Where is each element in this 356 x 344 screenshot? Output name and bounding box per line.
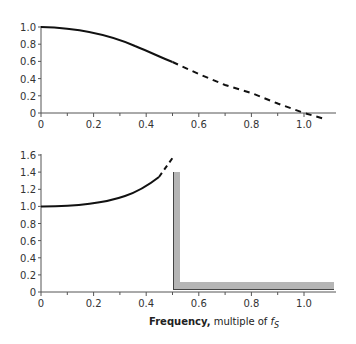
filter-vertical-band: [173, 172, 180, 290]
top-y-tick-labels: 0 0.2 0.4 0.6 0.8 1.0: [20, 22, 36, 119]
svg-text:0.2: 0.2: [86, 119, 102, 130]
top-chart: 0 0.2 0.4 0.6 0.8 1.0 0 0.2 0.4 0.6 0.: [20, 22, 336, 130]
svg-text:0.2: 0.2: [20, 91, 36, 102]
top-x-tick-labels: 0 0.2 0.4 0.6 0.8 1.0: [38, 119, 312, 130]
bottom-x-tick-labels: 0 0.2 0.4 0.6 0.8 1.0: [38, 298, 312, 309]
svg-text:0.8: 0.8: [243, 119, 259, 130]
svg-text:1.0: 1.0: [296, 119, 312, 130]
svg-text:1.0: 1.0: [20, 201, 36, 212]
svg-text:0.8: 0.8: [20, 39, 36, 50]
top-x-ticks: [41, 113, 304, 117]
svg-text:0.6: 0.6: [191, 119, 207, 130]
top-curve-solid: [41, 27, 173, 62]
bottom-x-axis-title: Frequency, multiple of fS: [149, 316, 279, 330]
svg-text:1.6: 1.6: [20, 150, 36, 161]
svg-text:0.4: 0.4: [138, 298, 154, 309]
svg-text:0.6: 0.6: [20, 56, 36, 67]
bottom-x-ticks: [41, 292, 304, 296]
svg-text:0.6: 0.6: [20, 236, 36, 247]
bottom-curve-dashed: [159, 158, 173, 177]
svg-text:0.8: 0.8: [20, 219, 36, 230]
svg-text:0: 0: [30, 108, 36, 119]
svg-text:1.4: 1.4: [20, 167, 36, 178]
bottom-y-tick-labels: 0 0.2 0.4 0.6 0.8 1.0 1.2 1.4 1.6: [20, 150, 36, 298]
svg-text:0.2: 0.2: [86, 298, 102, 309]
svg-text:0.4: 0.4: [20, 74, 36, 85]
bottom-curve-solid: [41, 177, 159, 206]
bottom-chart: 0 0.2 0.4 0.6 0.8 1.0 1.2 1.4 1.6 0 0.: [20, 150, 336, 330]
svg-text:0: 0: [38, 298, 44, 309]
svg-text:1.0: 1.0: [20, 22, 36, 33]
svg-text:0: 0: [38, 119, 44, 130]
chart-figure: 0 0.2 0.4 0.6 0.8 1.0 0 0.2 0.4 0.6 0.: [0, 0, 356, 344]
svg-text:0.2: 0.2: [20, 270, 36, 281]
top-curve-dashed: [173, 62, 326, 119]
svg-text:0.4: 0.4: [20, 253, 36, 264]
svg-text:0.8: 0.8: [243, 298, 259, 309]
svg-text:0.6: 0.6: [191, 298, 207, 309]
filter-horizontal-band: [173, 282, 334, 290]
svg-text:1.0: 1.0: [296, 298, 312, 309]
svg-text:1.2: 1.2: [20, 184, 36, 195]
svg-text:0.4: 0.4: [138, 119, 154, 130]
svg-text:0: 0: [30, 287, 36, 298]
